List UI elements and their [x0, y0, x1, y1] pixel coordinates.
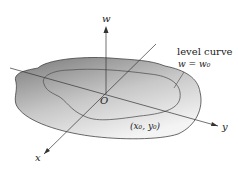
- y-axis-label: y: [222, 122, 228, 132]
- w-axis-label: w: [102, 14, 111, 24]
- level-curve-equation: w = w₀: [178, 60, 210, 69]
- y-axis-arrow: [211, 122, 218, 126]
- level-curve-diagram: w O y x level curve w = w₀ (x₀, y₀): [0, 0, 238, 170]
- w-axis-arrow: [104, 26, 109, 33]
- origin-label: O: [100, 96, 108, 106]
- x-axis-label: x: [35, 153, 41, 163]
- level-curve-title: level curve: [177, 47, 232, 57]
- diagram-graphics: [0, 0, 238, 170]
- point-label: (x₀, y₀): [130, 122, 160, 131]
